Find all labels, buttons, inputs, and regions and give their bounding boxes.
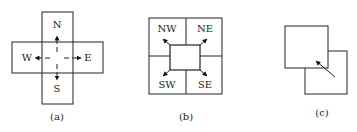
caption-a: (a) bbox=[50, 111, 64, 122]
arrow-ne-icon bbox=[200, 39, 207, 45]
arrow-nw-icon bbox=[163, 39, 170, 45]
caption-c: (c) bbox=[315, 107, 329, 118]
diagram-canvas: N S W E (a) NW NE SW SE (b) (c) bbox=[0, 0, 357, 132]
label-e: E bbox=[84, 52, 91, 63]
label-n: N bbox=[53, 19, 62, 30]
inner-square bbox=[170, 45, 200, 70]
panel-c: (c) bbox=[285, 26, 347, 118]
caption-b: (b) bbox=[179, 111, 193, 122]
label-s: S bbox=[54, 83, 61, 94]
label-ne: NE bbox=[197, 23, 213, 34]
panel-b: NW NE SW SE (b) bbox=[149, 18, 222, 122]
front-square bbox=[285, 26, 328, 68]
arrow-se-icon bbox=[200, 70, 207, 76]
label-sw: SW bbox=[158, 79, 176, 90]
label-w: W bbox=[22, 52, 33, 63]
label-se: SE bbox=[198, 79, 212, 90]
label-nw: NW bbox=[157, 23, 177, 34]
panel-a: N S W E (a) bbox=[12, 12, 103, 122]
arrow-sw-icon bbox=[163, 70, 170, 76]
